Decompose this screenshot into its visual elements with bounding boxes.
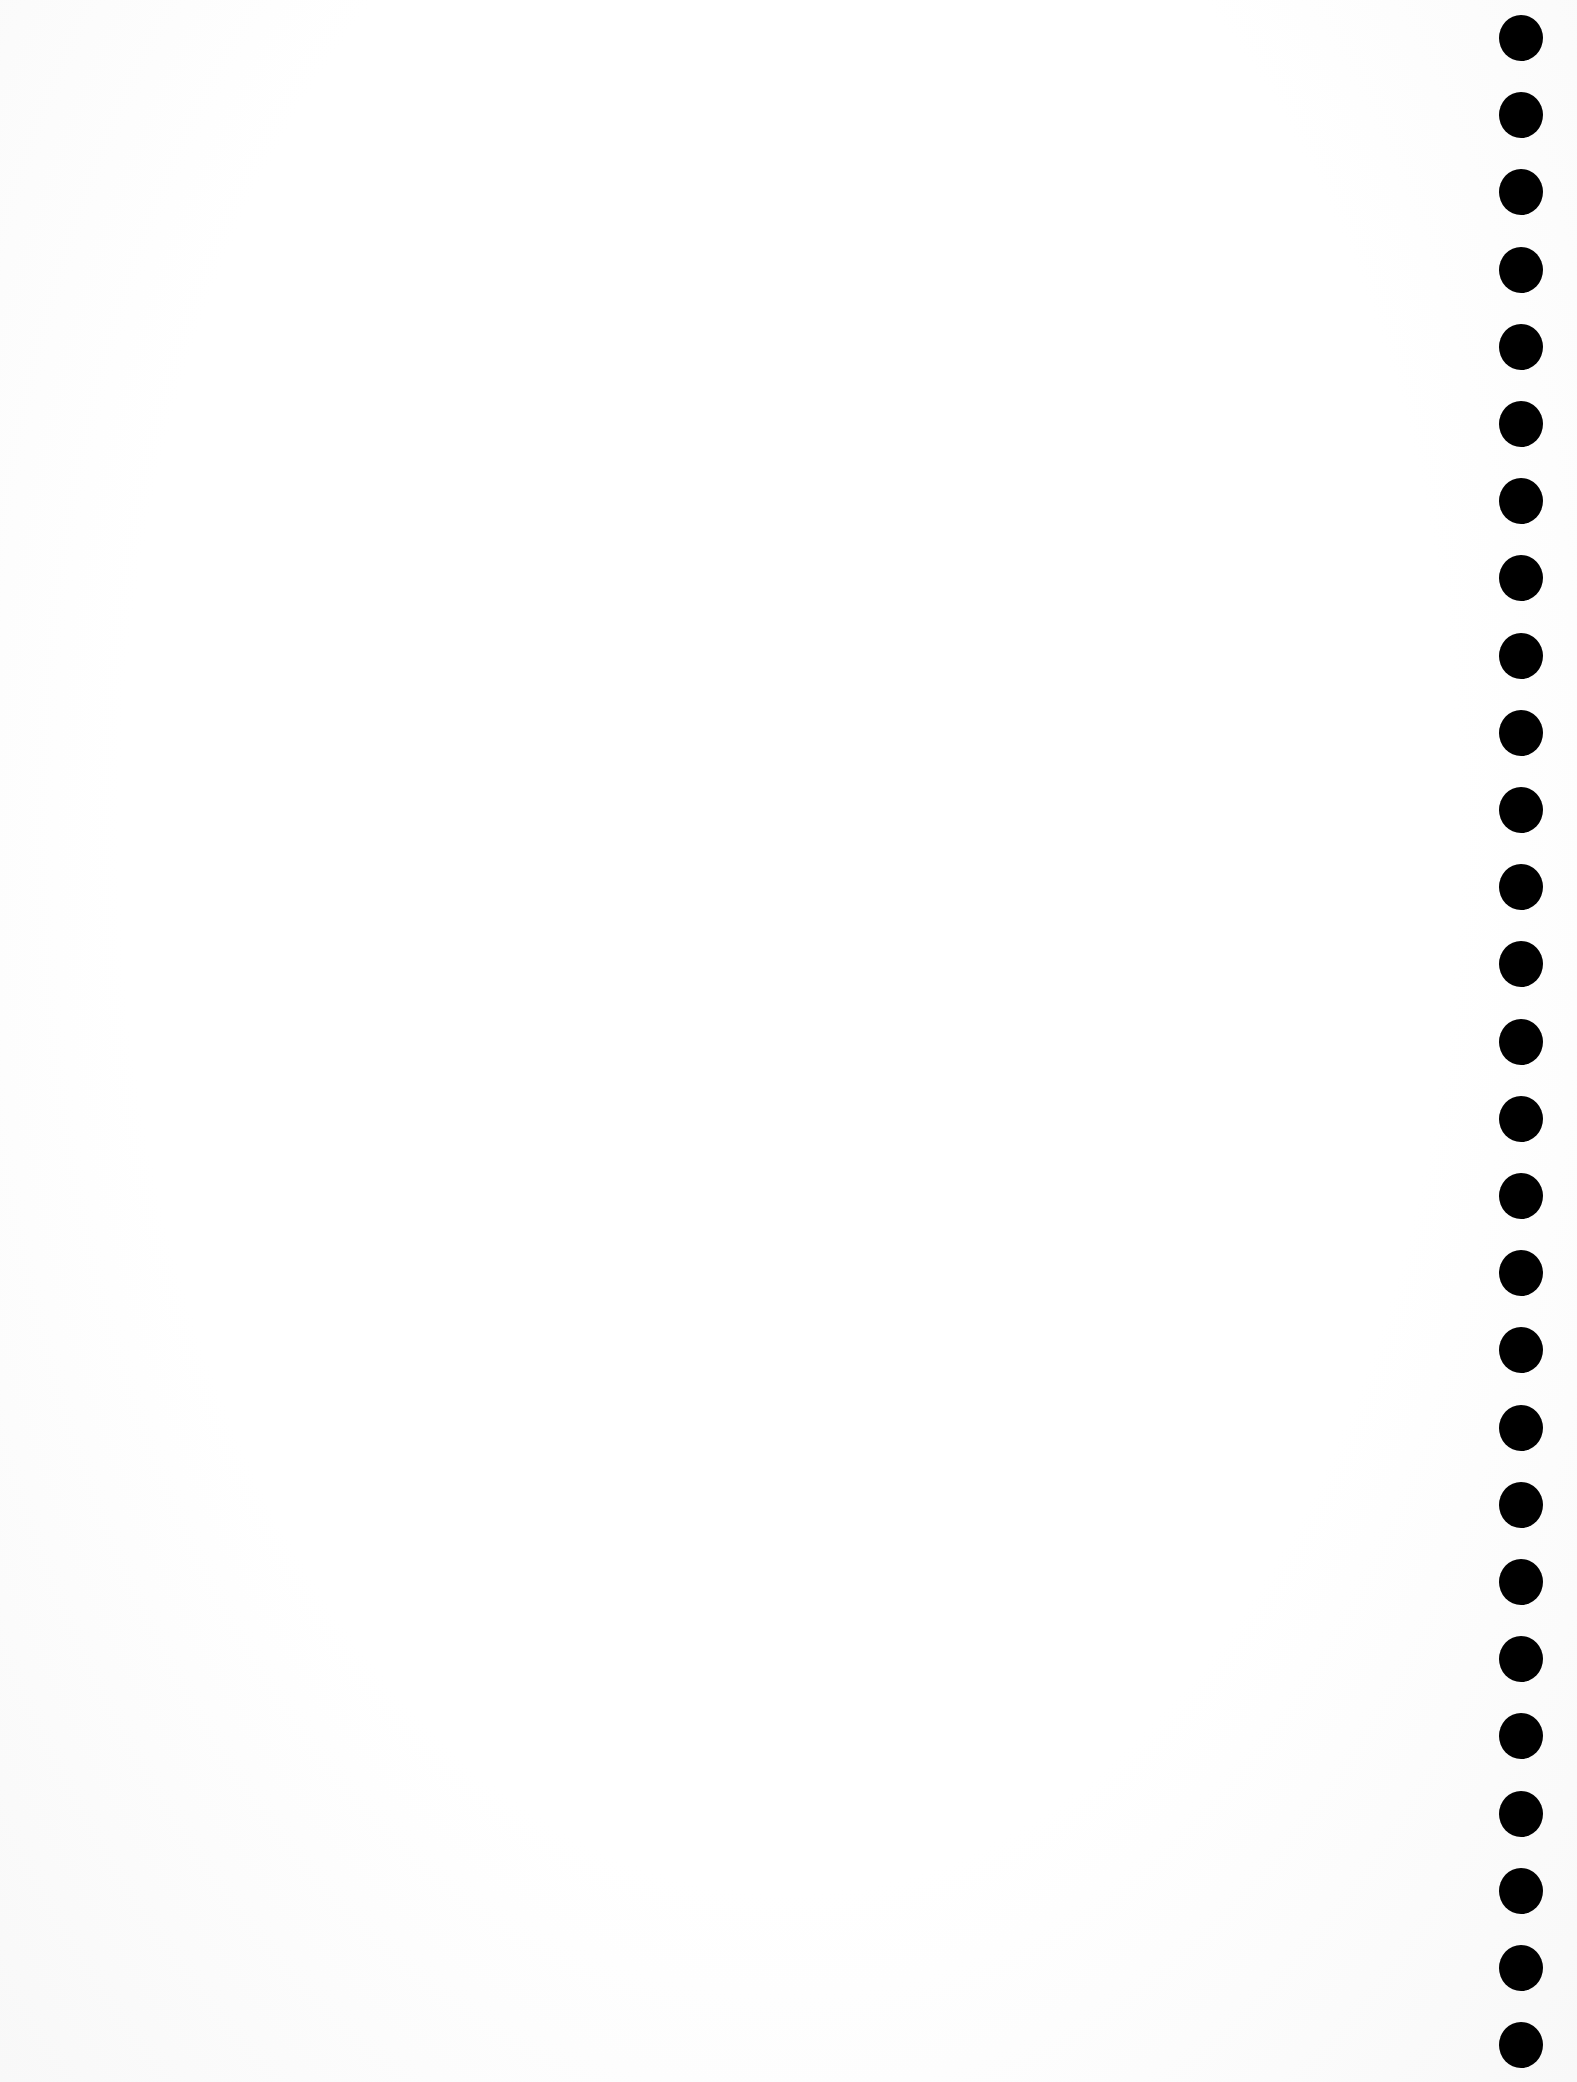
binding-hole — [1499, 324, 1543, 370]
binding-hole — [1499, 787, 1543, 833]
binding-hole — [1499, 247, 1543, 293]
binding-hole — [1499, 2022, 1543, 2068]
binding-hole — [1499, 710, 1543, 756]
binding-hole — [1499, 1405, 1543, 1451]
binding-hole — [1499, 1713, 1543, 1759]
binding-hole — [1499, 1250, 1543, 1296]
binding-hole — [1499, 1945, 1543, 1991]
binding-hole — [1499, 1096, 1543, 1142]
binding-hole — [1499, 1791, 1543, 1837]
binding-hole — [1499, 478, 1543, 524]
spiral-binding-holes — [1495, 0, 1547, 2082]
blank-notebook-page — [0, 0, 1577, 2082]
binding-hole — [1499, 1482, 1543, 1528]
binding-hole — [1499, 401, 1543, 447]
binding-hole — [1499, 15, 1543, 61]
binding-hole — [1499, 169, 1543, 215]
binding-hole — [1499, 864, 1543, 910]
binding-hole — [1499, 941, 1543, 987]
binding-hole — [1499, 1019, 1543, 1065]
binding-hole — [1499, 633, 1543, 679]
binding-hole — [1499, 1327, 1543, 1373]
binding-hole — [1499, 92, 1543, 138]
binding-hole — [1499, 1636, 1543, 1682]
binding-hole — [1499, 1868, 1543, 1914]
binding-hole — [1499, 1173, 1543, 1219]
binding-hole — [1499, 1559, 1543, 1605]
binding-hole — [1499, 555, 1543, 601]
